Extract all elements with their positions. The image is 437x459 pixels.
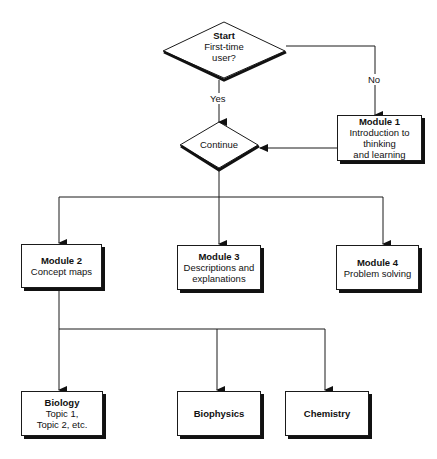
edge-label-no: No	[367, 74, 381, 85]
start-decision: Start First-time user?	[190, 30, 258, 63]
module-3-box: Module 3 Descriptions and explanations	[177, 245, 261, 290]
module-3-line-1: Descriptions and	[184, 262, 255, 273]
edge-start-to-module1	[286, 46, 375, 115]
module-2-title: Module 2	[41, 255, 82, 266]
continue-decision-label: Continue	[189, 139, 249, 150]
module-2-line-1: Concept maps	[31, 266, 92, 277]
module-4-line-1: Problem solving	[344, 268, 412, 279]
module-4-box: Module 4 Problem solving	[336, 245, 419, 290]
topic-biology-line-2: Topic 2, etc.	[37, 419, 88, 430]
topic-biophysics-box: Biophysics	[177, 391, 261, 436]
start-decision-line-1: First-time	[190, 41, 258, 52]
edge-label-yes: Yes	[209, 93, 227, 104]
topic-chemistry-title: Chemistry	[304, 408, 350, 419]
topic-chemistry-box: Chemistry	[285, 391, 369, 436]
start-decision-title: Start	[190, 30, 258, 41]
module-1-line-1: Introduction to	[349, 127, 409, 138]
topic-biophysics-title: Biophysics	[194, 408, 245, 419]
module-3-title: Module 3	[198, 251, 239, 262]
start-decision-line-2: user?	[190, 52, 258, 63]
module-1-line-2: thinking	[363, 138, 396, 149]
module-3-line-2: explanations	[192, 273, 245, 284]
flowchart-canvas: Start First-time user? Continue Yes No M…	[0, 0, 437, 459]
module-4-title: Module 4	[357, 257, 398, 268]
module-1-title: Module 1	[359, 116, 400, 127]
module-1-line-3: and learning	[353, 149, 405, 160]
module-1-box: Module 1 Introduction to thinking and le…	[337, 115, 422, 161]
topic-biology-box: Biology Topic 1, Topic 2, etc.	[21, 391, 103, 436]
topic-biology-line-1: Topic 1,	[46, 408, 79, 419]
module-2-box: Module 2 Concept maps	[21, 244, 102, 288]
continue-decision: Continue	[189, 139, 249, 150]
topic-biology-title: Biology	[45, 397, 80, 408]
